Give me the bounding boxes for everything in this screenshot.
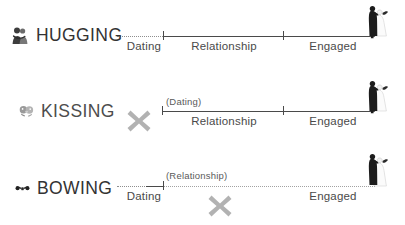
tick-dating-relationship [163,181,164,190]
axis-segment-solid [162,111,375,112]
wedding-couple-icon [362,0,392,42]
act-label-hugging: HUGGING [10,22,122,48]
act-label-bowing: BOWING [14,175,112,201]
axis-segment-dating-dotted [117,186,147,187]
axis-segment-dating-dotted [117,36,163,37]
hugging-couple-icon [10,25,30,45]
tick-relationship-engaged [283,31,284,40]
act-label-kissing: KISSING [18,98,115,124]
act-label-text: KISSING [41,101,115,122]
axis-segment-relationship-engaged-dotted [163,186,375,187]
stage-label-relationship: Relationship [168,40,280,52]
stage-label-relationship-parenthetical: (Relationship) [166,170,296,181]
stage-label-engaged: Engaged [288,190,378,202]
tick-relationship-start [162,106,163,115]
stage-label-dating-parenthetical: (Dating) [166,96,278,107]
kissing-couple-icon [18,103,35,120]
act-label-text: BOWING [37,178,112,199]
stage-label-dating: Dating [118,190,170,202]
diagram-canvas: Dating Relationship Engaged [0,0,405,225]
wedding-couple-icon [362,148,392,190]
axis-segment-solid [163,36,375,37]
act-label-text: HUGGING [36,25,122,46]
stage-label-relationship: Relationship [168,115,280,127]
x-mark-relationship-excluded [207,193,233,219]
bowing-couple-icon [14,180,31,197]
axis-segment-short-solid [146,186,164,187]
x-mark-dating-excluded [126,108,152,134]
stage-label-dating: Dating [118,40,170,52]
tick-dating-relationship [163,31,164,40]
wedding-couple-icon [362,75,392,117]
tick-relationship-engaged [283,106,284,115]
